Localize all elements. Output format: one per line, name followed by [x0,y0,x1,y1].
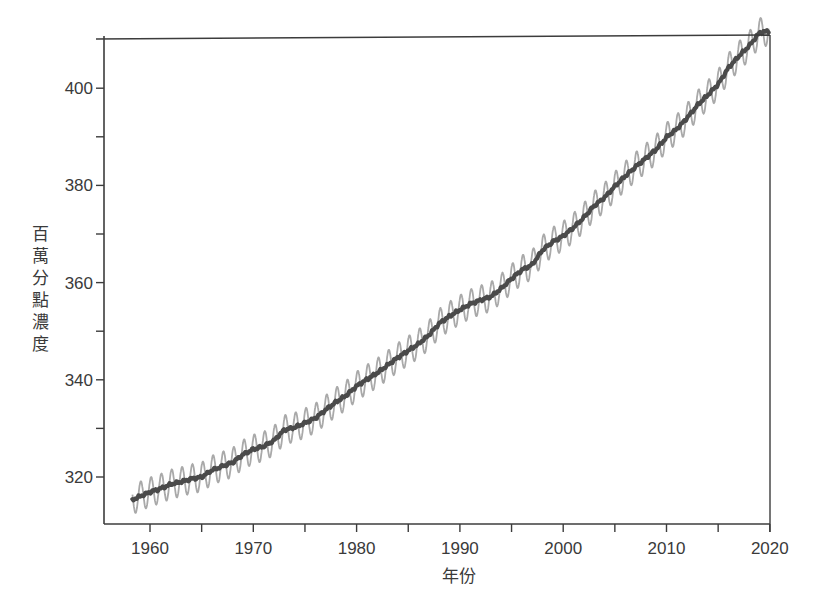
y-tick-label: 360 [65,274,93,293]
x-tick-label: 1970 [234,539,272,558]
y-axis-title: 百 萬 分 點 濃 度 [32,224,49,354]
co2-concentration-chart: 1960197019801990200020102020 32034036038… [0,0,820,609]
x-tick-label: 1980 [338,539,376,558]
x-tick-label: 1960 [131,539,169,558]
top-border-line [96,35,770,39]
y-axis-title-char: 點 [32,290,49,310]
y-axis-title-char: 萬 [32,246,49,266]
y-axis-ticks: 320340360380400 [65,79,104,487]
x-tick-label: 1990 [441,539,479,558]
seasonal-path [132,18,768,513]
trend-path [132,30,768,500]
axes [96,35,770,532]
y-tick-label: 380 [65,176,93,195]
y-axis-title-char: 度 [32,334,49,354]
x-axis-title: 年份 [442,566,476,586]
annual-trend-line [132,30,768,500]
seasonal-monthly-line [132,18,768,513]
x-tick-label: 2000 [544,539,582,558]
y-tick-label: 340 [65,371,93,390]
x-tick-label: 2020 [751,539,789,558]
y-tick-label: 320 [65,468,93,487]
y-axis-title-char: 濃 [32,312,49,332]
y-tick-label: 400 [65,79,93,98]
y-axis-title-char: 百 [32,224,49,244]
x-axis-ticks: 1960197019801990200020102020 [131,524,789,558]
x-tick-label: 2010 [648,539,686,558]
y-axis-title-char: 分 [32,268,49,288]
